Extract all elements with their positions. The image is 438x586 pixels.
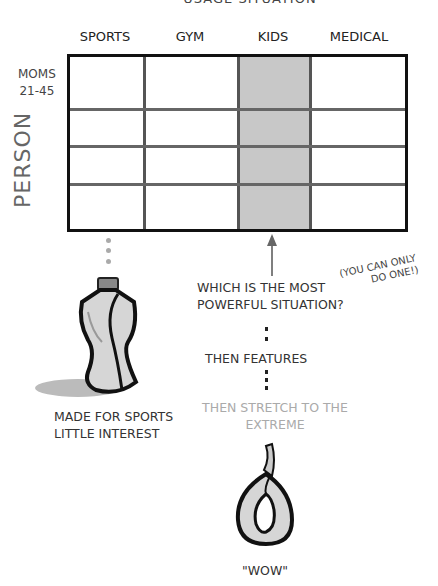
dotted-connector bbox=[106, 259, 111, 264]
column-header-medical: MEDICAL bbox=[309, 29, 409, 44]
stretch-line2: EXTREME bbox=[190, 416, 360, 433]
stretch-line1: THEN STRETCH TO THE bbox=[190, 399, 360, 416]
dotted-connector bbox=[265, 386, 268, 390]
arrow-up-icon bbox=[262, 230, 282, 276]
sports-caption-line2: LITTLE INTEREST bbox=[54, 425, 173, 442]
question-line2: POWERFUL SITUATION? bbox=[197, 296, 344, 313]
column-header-kids: KIDS bbox=[237, 29, 309, 44]
row-label-moms: MOMS 21-45 bbox=[18, 66, 56, 100]
grid-divider bbox=[237, 57, 240, 229]
dotted-connector bbox=[265, 337, 268, 341]
grid-divider bbox=[309, 57, 312, 229]
diagram-title: USAGE SITUATION bbox=[150, 0, 350, 6]
then-features-text: THEN FEATURES bbox=[205, 350, 307, 367]
sports-caption: MADE FOR SPORTS LITTLE INTEREST bbox=[54, 408, 173, 442]
sports-caption-line1: MADE FOR SPORTS bbox=[54, 408, 173, 425]
column-header-gym: GYM bbox=[143, 29, 237, 44]
kids-column-highlight bbox=[240, 57, 312, 229]
axis-label-person: PERSON bbox=[10, 112, 35, 208]
dotted-connector bbox=[265, 378, 268, 382]
dotted-connector bbox=[265, 370, 268, 374]
aside-note: (YOU CAN ONLY DO ONE!) bbox=[338, 252, 419, 292]
grid-divider bbox=[70, 183, 405, 186]
column-header-sports: SPORTS bbox=[67, 29, 143, 44]
wow-bottle-icon bbox=[230, 440, 300, 550]
row-label-line2: 21-45 bbox=[18, 83, 56, 100]
dotted-connector bbox=[106, 238, 111, 243]
dotted-connector bbox=[106, 248, 111, 253]
situation-grid bbox=[67, 54, 408, 232]
dotted-connector bbox=[265, 327, 268, 331]
grid-divider bbox=[70, 145, 405, 148]
question-line1: WHICH IS THE MOST bbox=[197, 279, 344, 296]
question-text: WHICH IS THE MOST POWERFUL SITUATION? bbox=[197, 279, 344, 313]
sports-bottle-icon bbox=[18, 272, 148, 402]
grid-divider bbox=[70, 108, 405, 111]
wow-caption: "WOW" bbox=[235, 562, 295, 579]
then-stretch-text: THEN STRETCH TO THE EXTREME bbox=[190, 399, 360, 433]
row-label-line1: MOMS bbox=[18, 66, 56, 83]
grid-divider bbox=[143, 57, 146, 229]
